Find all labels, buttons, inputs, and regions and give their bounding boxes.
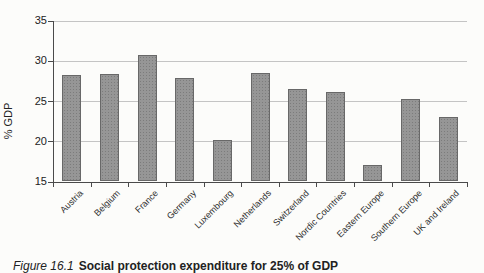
- y-axis-tick: [48, 21, 53, 22]
- x-axis-line: [53, 182, 468, 183]
- gridline-30: [53, 61, 467, 62]
- x-category-label-netherlands: Netherlands: [232, 188, 273, 229]
- bar-germany: [175, 78, 194, 182]
- y-axis-title: % GDP: [2, 86, 14, 156]
- bar-chart: 1520253035 AustriaBelgiumFranceGermanyLu…: [0, 0, 484, 273]
- bar-uk-and-ireland: [439, 117, 458, 181]
- y-tick-label-15: 15: [17, 175, 47, 187]
- x-category-label-germany: Germany: [165, 188, 198, 221]
- figure-caption: Figure 16.1Social protection expenditure…: [13, 259, 338, 273]
- y-axis-tick: [48, 141, 53, 142]
- x-axis-tick: [279, 183, 280, 187]
- x-axis-tick: [354, 183, 355, 187]
- x-axis-tick: [53, 183, 54, 187]
- x-category-label-luxembourg: Luxembourg: [193, 188, 235, 230]
- x-category-label-austria: Austria: [58, 188, 85, 215]
- y-axis-tick: [48, 61, 53, 62]
- bar-eastern-europe: [363, 165, 382, 182]
- y-tick-label-30: 30: [17, 54, 47, 66]
- x-axis-tick: [241, 183, 242, 187]
- x-axis-tick: [429, 183, 430, 187]
- figure-title: Social protection expenditure for 25% of…: [79, 259, 338, 273]
- y-tick-label-25: 25: [17, 95, 47, 107]
- x-axis-tick: [467, 183, 468, 187]
- bar-netherlands: [251, 73, 270, 182]
- bar-france: [138, 55, 157, 181]
- bar-nordic-countries: [326, 92, 345, 181]
- bar-belgium: [100, 74, 119, 182]
- bar-austria: [62, 75, 81, 181]
- bar-switzerland: [288, 89, 307, 182]
- figure-number: Figure 16.1: [13, 259, 74, 273]
- y-axis-tick: [48, 101, 53, 102]
- y-axis-line: [53, 21, 54, 183]
- x-category-label-france: France: [133, 188, 160, 215]
- x-axis-tick: [166, 183, 167, 187]
- x-category-label-switzerland: Switzerland: [271, 188, 311, 228]
- bar-southern-europe: [401, 99, 420, 181]
- bar-luxembourg: [213, 140, 232, 182]
- y-tick-label-35: 35: [17, 14, 47, 26]
- x-axis-tick: [316, 183, 317, 187]
- x-category-label-belgium: Belgium: [92, 188, 122, 218]
- gridline-35: [53, 21, 467, 22]
- x-axis-tick: [392, 183, 393, 187]
- x-axis-tick: [91, 183, 92, 187]
- x-axis-tick: [204, 183, 205, 187]
- y-tick-label-20: 20: [17, 135, 47, 147]
- x-axis-tick: [128, 183, 129, 187]
